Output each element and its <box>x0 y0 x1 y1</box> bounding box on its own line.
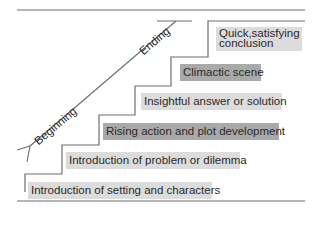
step-5-box: Climactic scene <box>180 64 261 81</box>
step-4-label: Insightful answer or solution <box>144 95 287 107</box>
step-3-label: Rising action and plot development <box>106 125 285 137</box>
step-3-box: Rising action and plot development <box>103 123 279 140</box>
diagonal-fork-down <box>27 146 30 162</box>
step-4-box: Insightful answer or solution <box>141 93 282 110</box>
diagonal-fork-left <box>17 146 30 150</box>
step-2-box: Introduction of problem or dilemma <box>66 152 240 169</box>
step-2-label: Introduction of problem or dilemma <box>69 154 247 166</box>
step-6-box: Quick,satisfying conclusion <box>216 27 302 51</box>
step-6-label-line2: conclusion <box>219 38 299 48</box>
step-1-box: Introduction of setting and characters <box>28 182 212 199</box>
step-1-label: Introduction of setting and characters <box>31 184 220 196</box>
step-5-label: Climactic scene <box>183 66 264 78</box>
